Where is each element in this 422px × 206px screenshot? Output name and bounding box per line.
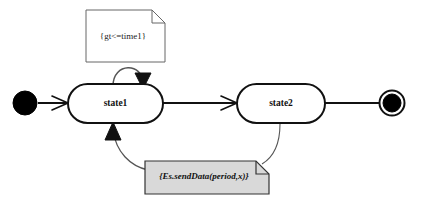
- uml-state-diagram: state1 state2 {gt<=time1} {Es.sendData(p…: [0, 0, 422, 206]
- action-note-text: {Es.sendData(period,x)}: [159, 171, 249, 181]
- state1-label: state1: [104, 98, 128, 108]
- state2-label: state2: [269, 98, 293, 108]
- final-state-inner-disc: [383, 94, 401, 112]
- connector-state2-to-action-note: [262, 124, 280, 164]
- diagram-canvas: state1 state2 {gt<=time1} {Es.sendData(p…: [0, 0, 422, 206]
- initial-state-marker: [13, 91, 37, 115]
- arrowhead-filled-return-to-state1: [105, 122, 121, 140]
- guard-note-text: {gt<=time1}: [100, 31, 146, 41]
